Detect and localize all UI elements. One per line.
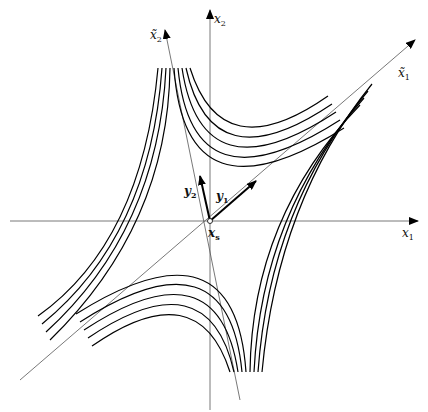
- y2-vector: [200, 176, 210, 221]
- axes: [10, 10, 418, 410]
- xt2-axis-label: x̃2: [150, 28, 162, 44]
- xt1-axis: [20, 40, 415, 380]
- origin-label: xs: [208, 226, 220, 242]
- xt1-axis-label: x̃1: [398, 66, 410, 82]
- x2-axis-label: x2: [214, 12, 226, 28]
- trajectories: [38, 68, 372, 372]
- phase-portrait: [0, 0, 428, 412]
- y2-label: y2: [184, 184, 197, 200]
- origin-point: [208, 219, 213, 224]
- y1-label: y1: [216, 189, 229, 205]
- x1-axis-label: x1: [402, 226, 414, 242]
